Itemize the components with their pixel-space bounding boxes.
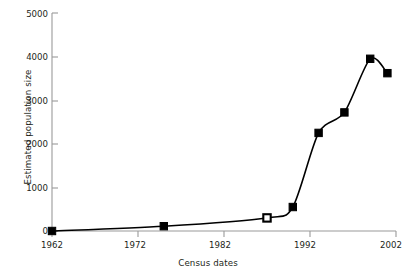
data-point-marker (160, 223, 167, 230)
data-point-marker (289, 203, 296, 210)
plot-area (0, 0, 416, 274)
data-point-marker (384, 69, 391, 76)
data-point-marker (341, 109, 348, 116)
data-markers-series-1 (48, 55, 391, 235)
y-axis-ticks (52, 13, 58, 231)
data-line-series-1 (52, 58, 387, 231)
population-line-chart: Estimated population size Census dates 0… (0, 0, 416, 274)
data-point-marker (48, 227, 55, 234)
x-axis-ticks (52, 231, 396, 237)
data-point-marker (367, 55, 374, 62)
data-point-marker (315, 129, 322, 136)
data-point-marker (263, 214, 270, 221)
